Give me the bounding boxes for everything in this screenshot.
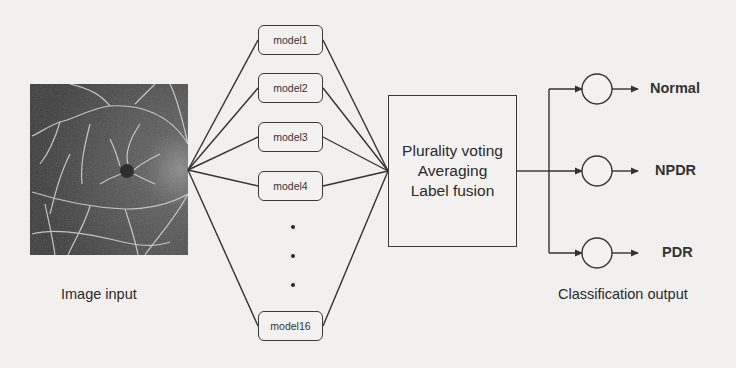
model-box-1: model1	[258, 25, 323, 55]
output-caption: Classification output	[558, 286, 688, 302]
output-label-pdr: PDR	[662, 244, 693, 260]
edge-model-to-fusion-4	[323, 171, 388, 186]
model-label: model16	[270, 320, 310, 332]
edge-input-to-model-5	[188, 170, 258, 326]
output-node-npdr	[582, 156, 612, 186]
ensemble-diagram: model1 model2 model3 model4 model16 Plur…	[0, 0, 736, 368]
connector-lines	[0, 0, 736, 368]
output-node-normal	[582, 74, 612, 104]
model-box-4: model4	[258, 171, 323, 201]
fusion-method-averaging: Averaging	[418, 161, 488, 181]
edge-model-to-fusion-1	[323, 40, 388, 171]
ellipsis-dot	[291, 225, 295, 229]
edge-input-to-model-4	[188, 170, 258, 186]
input-caption: Image input	[61, 286, 137, 302]
model-box-2: model2	[258, 73, 323, 103]
edge-model-to-fusion-5	[323, 171, 388, 326]
fusion-method-label-fusion: Label fusion	[411, 181, 495, 201]
edge-input-to-model-1	[188, 40, 258, 170]
edge-model-to-fusion-2	[323, 88, 388, 171]
edge-input-to-model-2	[188, 88, 258, 170]
output-label-npdr: NPDR	[655, 162, 696, 178]
fusion-method-plurality-voting: Plurality voting	[402, 141, 503, 161]
fusion-box: Plurality voting Averaging Label fusion	[388, 95, 517, 247]
model-box-3: model3	[258, 122, 323, 152]
model-label: model2	[273, 82, 307, 94]
edge-input-to-model-3	[188, 137, 258, 170]
output-node-pdr	[582, 238, 612, 268]
output-label-normal: Normal	[650, 80, 700, 96]
edge-model-to-fusion-3	[323, 137, 388, 171]
model-box-16: model16	[258, 311, 323, 341]
model-label: model3	[273, 131, 307, 143]
model-label: model1	[273, 34, 307, 46]
ellipsis-dot	[291, 283, 295, 287]
model-label: model4	[273, 180, 307, 192]
ellipsis-dot	[291, 254, 295, 258]
